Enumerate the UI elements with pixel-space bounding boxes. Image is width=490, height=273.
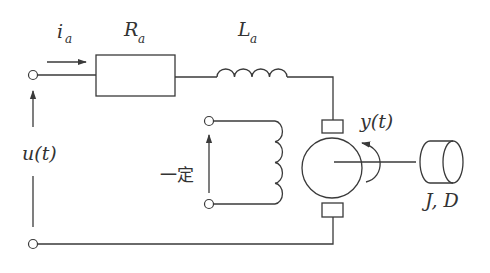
field-terminal-bottom bbox=[205, 200, 214, 209]
inductor-label-subscript: a bbox=[250, 32, 257, 46]
current-label-subscript: a bbox=[65, 32, 72, 46]
resistor-label-subscript: a bbox=[138, 32, 145, 46]
input-terminal-bottom bbox=[29, 240, 38, 249]
input-voltage-label: u(t) bbox=[22, 142, 57, 164]
field-circuit bbox=[209, 121, 282, 204]
field-coil bbox=[275, 121, 282, 204]
field-excitation-label: 一定 bbox=[160, 165, 194, 185]
load-label: J, D bbox=[421, 189, 459, 211]
armature-resistor bbox=[96, 55, 175, 96]
resistor-label: R bbox=[123, 18, 138, 40]
bottom-return-wire bbox=[37, 217, 333, 244]
inductor-label: L bbox=[237, 18, 251, 40]
dc-motor bbox=[302, 120, 416, 217]
inertial-load bbox=[420, 141, 463, 183]
current-label: i bbox=[57, 20, 63, 42]
input-terminal-top bbox=[29, 71, 38, 80]
wire-inductor-motor bbox=[287, 77, 333, 120]
field-terminal-top bbox=[205, 117, 214, 126]
dc-motor-circuit-diagram: i a R a L a y(t) J, D u(t) bbox=[0, 0, 490, 273]
output-angle-label: y(t) bbox=[359, 110, 393, 132]
armature-inductor bbox=[217, 69, 287, 77]
